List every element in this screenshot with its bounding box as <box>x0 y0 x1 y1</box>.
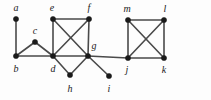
vertex-label-i: i <box>108 84 111 94</box>
vertex-m <box>125 17 130 22</box>
vertex-label-e: e <box>50 3 54 13</box>
vertex-k <box>161 55 166 60</box>
vertex-label-g: g <box>92 41 97 51</box>
vertex-l <box>161 17 166 22</box>
vertex-j <box>125 55 130 60</box>
edge-d-h <box>53 56 70 75</box>
vertex-d <box>50 53 55 58</box>
vertex-label-h: h <box>68 84 73 94</box>
vertex-i <box>106 73 111 78</box>
edge-group <box>16 19 164 76</box>
vertex-label-k: k <box>162 65 166 75</box>
vertex-h <box>67 72 72 77</box>
vertex-e <box>50 16 55 21</box>
vertex-label-l: l <box>164 4 167 14</box>
vertex-label-d: d <box>51 64 56 74</box>
vertex-label-j: j <box>126 65 129 75</box>
graph-figure: abcdefghijklm <box>0 0 211 100</box>
vertex-label-c: c <box>33 26 37 36</box>
vertex-a <box>13 16 18 21</box>
edge-c-d <box>35 42 53 56</box>
vertex-g <box>85 53 90 58</box>
edge-g-h <box>70 56 88 75</box>
graph-canvas <box>0 0 211 100</box>
edge-g-j <box>88 56 128 58</box>
vertex-c <box>32 39 37 44</box>
vertex-label-a: a <box>14 3 19 13</box>
vertex-b <box>13 53 18 58</box>
edge-f-g <box>88 19 89 56</box>
vertex-label-m: m <box>123 4 130 14</box>
edge-g-i <box>88 56 109 76</box>
vertex-label-f: f <box>88 3 91 13</box>
vertex-f <box>86 16 91 21</box>
vertex-label-b: b <box>14 64 19 74</box>
edge-b-c <box>16 42 35 56</box>
